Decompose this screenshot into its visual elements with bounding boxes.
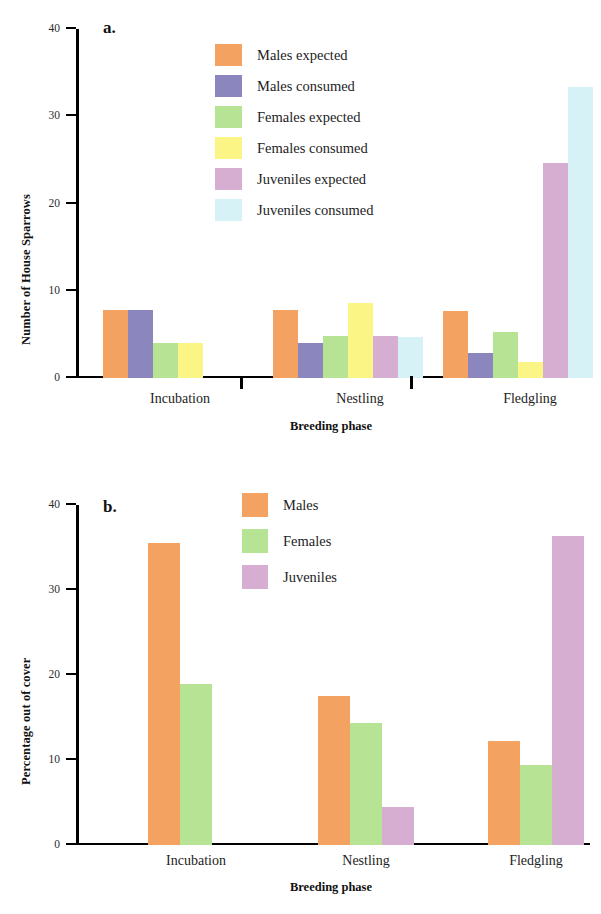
legend-b: MalesFemalesJuveniles xyxy=(242,493,337,601)
legend-a-label: Females consumed xyxy=(257,140,368,157)
bar-nestling-juveniles xyxy=(382,807,414,845)
bar-incubation-males-consumed xyxy=(128,310,153,378)
y-tick-label-20: 20 xyxy=(49,668,61,680)
legend-a-item-males-expected[interactable]: Males expected xyxy=(215,44,373,66)
legend-a-item-juveniles-consumed[interactable]: Juveniles consumed xyxy=(215,199,373,221)
legend-swatch-icon xyxy=(215,106,242,128)
legend-a-label: Females expected xyxy=(257,109,360,126)
bar-fledgling-males xyxy=(488,741,520,845)
x-group-label-fledgling: Fledgling xyxy=(503,391,557,407)
y-tick-0: 0 xyxy=(66,376,76,378)
bar-fledgling-females-consumed xyxy=(518,362,543,378)
bar-fledgling-females-expected xyxy=(493,332,518,378)
legend-a-label: Juveniles consumed xyxy=(257,202,373,219)
x-axis-label-a: Breeding phase xyxy=(290,419,372,434)
bar-nestling-males xyxy=(318,696,350,845)
bar-nestling-females-expected xyxy=(323,336,348,378)
y-tick-label-0: 0 xyxy=(54,371,60,383)
legend-b-label: Females xyxy=(283,533,331,550)
legend-swatch-icon xyxy=(215,137,242,159)
y-tick-0: 0 xyxy=(66,843,76,845)
bar-fledgling-juveniles xyxy=(552,536,584,845)
legend-a-label: Males consumed xyxy=(257,78,355,95)
y-tick-30: 30 xyxy=(66,588,76,590)
y-tick-20: 20 xyxy=(66,673,76,675)
y-tick-30: 30 xyxy=(66,114,76,116)
y-tick-10: 10 xyxy=(66,758,76,760)
y-tick-20: 20 xyxy=(66,202,76,204)
legend-swatch-icon xyxy=(242,565,268,589)
legend-b-label: Juveniles xyxy=(283,569,337,586)
x-axis-separator-1 xyxy=(240,376,243,389)
x-axis-label-b: Breeding phase xyxy=(290,880,372,895)
y-tick-40: 40 xyxy=(66,503,76,505)
y-axis-label-b: Percentage out of cover xyxy=(19,658,34,785)
x-group-label-nestling: Nestling xyxy=(342,853,389,869)
x-group-label-incubation: Incubation xyxy=(166,853,226,869)
legend-swatch-icon xyxy=(215,75,242,97)
x-axis-separator-2 xyxy=(410,376,413,389)
figure-panel-a: Number of House Sparrows a. 010203040 In… xyxy=(0,0,601,455)
y-tick-label-10: 10 xyxy=(49,753,61,765)
bar-nestling-juveniles-consumed xyxy=(398,337,423,378)
bar-nestling-males-expected xyxy=(273,310,298,378)
bar-fledgling-males-expected xyxy=(443,311,468,378)
legend-a-item-juveniles-expected[interactable]: Juveniles expected xyxy=(215,168,373,190)
bar-incubation-females xyxy=(180,684,212,846)
legend-b-item-juveniles[interactable]: Juveniles xyxy=(242,565,337,589)
bar-fledgling-juveniles-expected xyxy=(543,163,568,378)
bar-incubation-females-expected xyxy=(153,343,178,378)
legend-b-item-males[interactable]: Males xyxy=(242,493,337,517)
y-tick-label-20: 20 xyxy=(49,196,61,208)
y-tick-40: 40 xyxy=(66,27,76,29)
y-tick-10: 10 xyxy=(66,289,76,291)
x-group-label-incubation: Incubation xyxy=(150,391,210,407)
y-axis-label-a: Number of House Sparrows xyxy=(19,194,34,345)
y-tick-label-0: 0 xyxy=(54,838,60,850)
legend-swatch-icon xyxy=(242,493,268,517)
legend-a-label: Males expected xyxy=(257,47,348,64)
bar-fledgling-juveniles-consumed xyxy=(568,87,593,378)
bar-nestling-females xyxy=(350,723,382,845)
figure-panel-b: Percentage out of cover b. 010203040 Inc… xyxy=(0,455,601,914)
legend-a-item-males-consumed[interactable]: Males consumed xyxy=(215,75,373,97)
legend-swatch-icon xyxy=(215,168,242,190)
bar-nestling-males-consumed xyxy=(298,343,323,378)
y-tick-label-30: 30 xyxy=(49,109,61,121)
legend-a-item-females-consumed[interactable]: Females consumed xyxy=(215,137,373,159)
bar-nestling-females-consumed xyxy=(348,303,373,378)
x-group-label-fledgling: Fledgling xyxy=(509,853,563,869)
bar-nestling-juveniles-expected xyxy=(373,336,398,378)
legend-swatch-icon xyxy=(242,529,268,553)
legend-swatch-icon xyxy=(215,199,242,221)
legend-a-item-females-expected[interactable]: Females expected xyxy=(215,106,373,128)
bar-incubation-females-consumed xyxy=(178,343,203,378)
x-group-label-nestling: Nestling xyxy=(336,391,383,407)
y-tick-label-30: 30 xyxy=(49,583,61,595)
legend-swatch-icon xyxy=(215,44,242,66)
y-tick-label-40: 40 xyxy=(49,22,61,34)
legend-a-label: Juveniles expected xyxy=(257,171,366,188)
legend-b-item-females[interactable]: Females xyxy=(242,529,337,553)
legend-a: Males expectedMales consumedFemales expe… xyxy=(215,44,373,230)
legend-b-label: Males xyxy=(283,497,318,514)
y-tick-label-40: 40 xyxy=(49,498,61,510)
bar-fledgling-males-consumed xyxy=(468,353,493,378)
bar-incubation-males xyxy=(148,543,180,845)
y-tick-label-10: 10 xyxy=(49,284,61,296)
bar-incubation-males-expected xyxy=(103,310,128,378)
bar-fledgling-females xyxy=(520,765,552,845)
